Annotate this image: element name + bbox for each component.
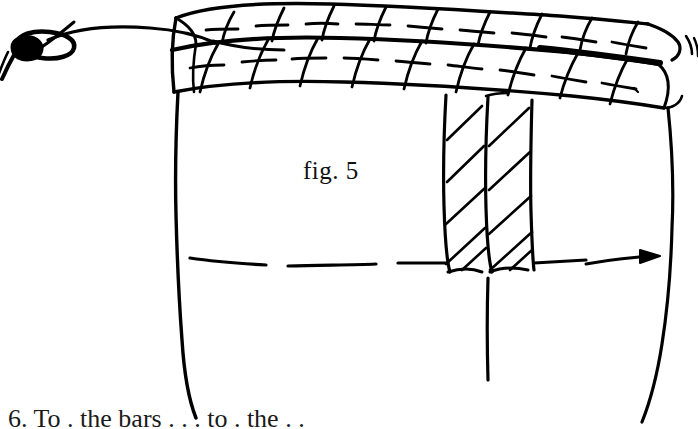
- hand-drawn-figure: [0, 0, 698, 429]
- line-knot-icon: [0, 22, 74, 79]
- figure-page: fig. 5 6. To . the bars . . . to . the .…: [0, 0, 698, 429]
- hatched-pier: [444, 95, 534, 272]
- plumb-line: [487, 278, 488, 380]
- dashed-course-line: [190, 258, 586, 266]
- direction-arrow-icon: [586, 250, 660, 264]
- left-wall-edge: [176, 92, 196, 418]
- brick-courses: [172, 4, 698, 108]
- figure-label: fig. 5: [303, 157, 359, 185]
- right-wall-edge: [642, 108, 673, 422]
- figure-caption: 6. To . the bars . . . to . the . .: [8, 404, 698, 429]
